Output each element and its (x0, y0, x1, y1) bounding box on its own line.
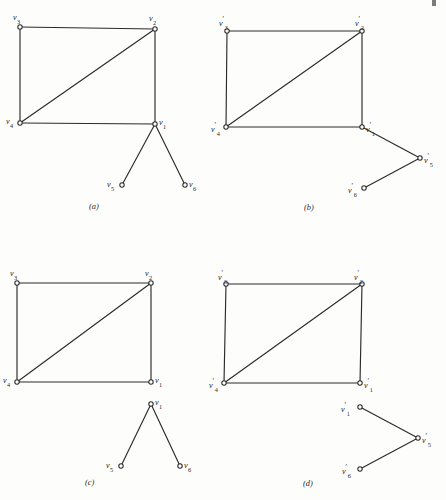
edge-v2p-v4p (226, 31, 362, 127)
edge-v1-v6 (155, 124, 185, 185)
vertex-label-a-v2: v2 (149, 15, 156, 25)
vertex-label-c-v1b: v1 (155, 399, 162, 409)
vertex-label-d-v2p: v′2 (354, 270, 363, 284)
figure-page: v3v2v4v1v5v6v′3v′2v′4v′1v′5v′6v3v2v4v1v1… (0, 0, 446, 500)
edge-v2-v4 (20, 29, 155, 123)
edge-v3-v2 (20, 27, 155, 29)
edge-v1b-v5 (121, 404, 151, 466)
vertex-a-v3 (18, 25, 22, 29)
edge-v2p-v4p (224, 284, 362, 383)
vertex-c-v2 (149, 281, 153, 285)
panel-c-edges (17, 283, 180, 466)
vertex-a-v2 (153, 27, 157, 31)
panel-b-edges (226, 31, 420, 188)
panel-b-nodes (224, 29, 422, 190)
vertex-label-b-v2p: v′2 (355, 16, 364, 30)
panel-c-nodes (15, 281, 182, 468)
vertex-c-v1a (149, 380, 153, 384)
panel-caption-b: (b) (304, 204, 314, 212)
nodes-layer (15, 25, 422, 471)
vertex-c-v4 (15, 380, 19, 384)
vertex-label-d-v5p: v′5 (422, 433, 431, 447)
edge-v4-v1 (20, 123, 155, 124)
vertex-d-v1pa (358, 381, 362, 385)
vertex-label-d-v4p: v′4 (209, 378, 218, 392)
edge-v5p-v6p (360, 438, 418, 469)
edge-v1-v5 (122, 124, 155, 185)
vertex-label-a-v5: v5 (107, 181, 114, 191)
edge-v1b-v6 (151, 404, 180, 466)
vertex-c-v5 (119, 464, 123, 468)
vertex-c-v3 (15, 281, 19, 285)
vertex-a-v5 (120, 183, 124, 187)
vertex-a-v4 (18, 121, 22, 125)
vertex-label-d-v6p: v′6 (342, 464, 351, 478)
panel-a-nodes (18, 25, 187, 187)
vertex-label-b-v6p: v′6 (348, 183, 357, 197)
panel-caption-c: (c) (85, 479, 94, 487)
vertex-d-v6p (358, 467, 362, 471)
graph-figure-canvas (0, 0, 446, 500)
edge-v5p-v6p (364, 158, 420, 188)
scan-artifact (432, 0, 436, 6)
panel-caption-a: (a) (89, 203, 99, 211)
vertex-label-b-v4p: v′4 (211, 122, 220, 136)
edge-v2-v4 (17, 283, 151, 382)
vertex-label-d-v3p: v′3 (218, 270, 227, 284)
vertex-c-v6 (178, 464, 182, 468)
vertex-b-v4p (224, 125, 228, 129)
vertex-d-v1pb (358, 405, 362, 409)
vertex-label-b-v3p: v′3 (219, 16, 228, 30)
vertex-b-v1p (360, 125, 364, 129)
vertex-d-v4p (222, 381, 226, 385)
edge-v3p-v4p (224, 284, 226, 383)
vertex-d-v5p (416, 436, 420, 440)
vertex-label-c-v3: v3 (10, 270, 17, 280)
edges-layer (17, 27, 420, 469)
vertex-c-v1b (149, 402, 153, 406)
edge-v1pb-v5p (360, 407, 418, 438)
vertex-label-d-v1pa: v′1 (364, 378, 373, 392)
vertex-b-v6p (362, 186, 366, 190)
vertex-label-c-v5: v5 (106, 462, 113, 472)
vertex-label-c-v4: v4 (3, 377, 10, 387)
vertex-label-c-v2: v2 (145, 270, 152, 280)
vertex-label-a-v3: v3 (13, 14, 20, 24)
edge-v2p-v1pa (360, 284, 362, 383)
vertex-label-a-v1: v1 (159, 119, 166, 129)
vertex-label-b-v1p: v′1 (366, 122, 375, 136)
vertex-label-b-v5p: v′5 (424, 153, 433, 167)
panel-d-nodes (222, 282, 420, 471)
panel-a-edges (20, 27, 185, 185)
vertex-b-v5p (418, 156, 422, 160)
panel-caption-d: (d) (303, 480, 313, 488)
vertex-label-a-v6: v6 (189, 181, 196, 191)
vertex-label-c-v1a: v1 (155, 377, 162, 387)
vertex-a-v1 (153, 122, 157, 126)
vertex-label-c-v6: v6 (184, 462, 191, 472)
vertex-a-v6 (183, 183, 187, 187)
panel-d-edges (224, 284, 418, 469)
edge-v3p-v4p (226, 31, 227, 127)
vertex-label-a-v4: v4 (6, 118, 13, 128)
vertex-label-d-v1pb: v′1 (341, 402, 350, 416)
